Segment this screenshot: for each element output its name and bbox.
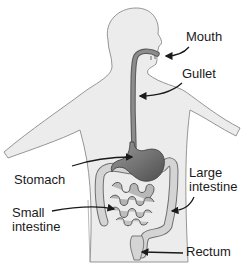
- label-large-intestine-line1: Large: [189, 166, 237, 180]
- label-rectum: Rectum: [186, 245, 231, 259]
- label-small-intestine-line1: Small: [12, 206, 60, 220]
- label-large-intestine: Large intestine: [189, 166, 237, 194]
- label-small-intestine: Small intestine: [12, 206, 60, 234]
- hip-line-left: [88, 200, 90, 262]
- label-stomach: Stomach: [14, 173, 65, 187]
- digestive-system-diagram: Mouth Gullet Stomach Large intestine Sma…: [0, 0, 248, 270]
- label-large-intestine-line2: intestine: [189, 180, 237, 194]
- label-small-intestine-line2: intestine: [12, 220, 60, 234]
- label-gullet: Gullet: [182, 67, 216, 81]
- label-mouth: Mouth: [186, 30, 222, 44]
- mouth-arrow: [166, 47, 189, 56]
